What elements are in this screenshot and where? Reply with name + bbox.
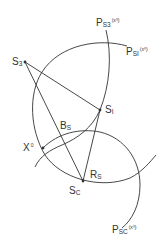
label-si: SI bbox=[105, 105, 113, 116]
label-psi: PSI(x⁰) bbox=[126, 47, 148, 58]
label-psc: PSC(x⁰) bbox=[112, 225, 137, 236]
curve-ps3 bbox=[35, 30, 109, 167]
point-sc bbox=[82, 180, 85, 183]
point-s3 bbox=[24, 61, 27, 64]
curve-psi bbox=[33, 43, 156, 183]
label-bs: BS bbox=[60, 121, 71, 132]
label-x0: X0 bbox=[23, 143, 33, 153]
diagram-canvas bbox=[0, 0, 164, 244]
label-ps3: PS3(x⁰) bbox=[96, 18, 119, 29]
label-sc: SC bbox=[69, 186, 80, 197]
point-x0 bbox=[42, 147, 45, 150]
point-si bbox=[99, 109, 102, 112]
label-rs: RS bbox=[90, 170, 102, 181]
label-s3: S3 bbox=[12, 57, 22, 68]
